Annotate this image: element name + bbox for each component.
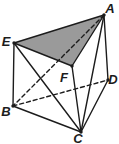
vertex-dot-E	[12, 41, 15, 44]
vertex-label-C: C	[73, 131, 83, 144]
edge-EB	[13, 43, 14, 106]
vertex-dot-B	[11, 104, 14, 107]
vertex-label-B: B	[1, 104, 10, 119]
vertex-label-F: F	[60, 70, 69, 85]
vertex-label-E: E	[2, 34, 11, 49]
edge-AD	[104, 15, 108, 80]
vertex-dot-F	[70, 64, 73, 67]
geometry-figure: ABCDEF	[0, 0, 119, 144]
triangular-prism-diagram: ABCDEF	[0, 0, 119, 144]
vertex-label-A: A	[104, 1, 114, 16]
vertex-label-D: D	[108, 72, 118, 87]
shaded-face-EAF	[14, 15, 104, 66]
edge-CD	[81, 80, 108, 132]
